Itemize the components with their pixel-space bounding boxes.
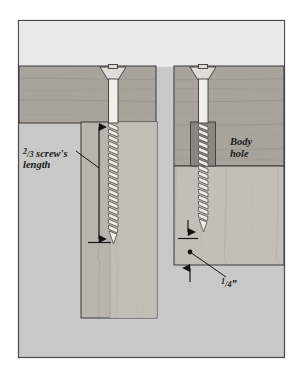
right-screw-shank xyxy=(199,79,209,123)
label-line-1: Body xyxy=(230,136,252,147)
screw-pilot-hole-figure xyxy=(0,0,303,378)
inch-mark: ” xyxy=(231,278,236,289)
fraction-two-thirds: 2/3 xyxy=(23,148,33,159)
label-line-2: length xyxy=(23,159,50,170)
label-line-2: hole xyxy=(230,148,249,159)
label-line-1: screw's xyxy=(33,148,67,159)
label-quarter-inch: 1/4” xyxy=(221,277,237,289)
label-two-thirds-screw-length: 2/3 screw'slength xyxy=(23,147,68,171)
label-body-hole: Bodyhole xyxy=(230,136,252,160)
left-top-board xyxy=(19,66,156,123)
illustration-stage: 2/3 screw'slength Bodyhole 1/4” xyxy=(0,0,303,378)
left-screw-shank xyxy=(109,79,119,123)
right-diagram xyxy=(174,65,284,283)
